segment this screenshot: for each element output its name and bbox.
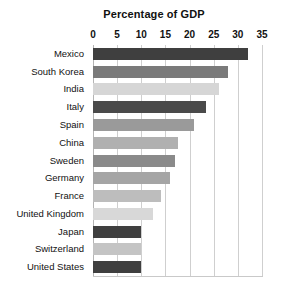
bar-chart: Percentage of GDP 05101520253035 MexicoS… [0, 0, 286, 289]
gridline-20 [190, 45, 191, 276]
category-label: France [0, 190, 88, 202]
category-label: Spain [0, 119, 88, 131]
gridline-35 [262, 45, 263, 276]
plot-area [93, 45, 262, 276]
x-tick-label-30: 30 [226, 29, 250, 40]
bar [93, 66, 228, 78]
x-axis-tick-labels: 05101520253035 [0, 29, 286, 43]
category-label: United States [0, 261, 88, 273]
chart-title: Percentage of GDP [0, 8, 286, 20]
axis-baseline [93, 276, 263, 277]
bar [93, 137, 178, 149]
category-label: United Kingdom [0, 208, 88, 220]
bar [93, 155, 175, 167]
x-tick-label-25: 25 [202, 29, 226, 40]
x-tick-label-20: 20 [178, 29, 202, 40]
category-label: Mexico [0, 48, 88, 60]
category-label: Japan [0, 226, 88, 238]
gridline-30 [238, 45, 239, 276]
category-label: India [0, 83, 88, 95]
bar [93, 48, 248, 60]
bar [93, 208, 153, 220]
chart-title-text: Percentage of GDP [103, 8, 204, 20]
category-label: Sweden [0, 155, 88, 167]
bar [93, 243, 141, 255]
category-label: South Korea [0, 66, 88, 78]
bar [93, 172, 170, 184]
x-tick-label-15: 15 [153, 29, 177, 40]
y-axis-category-labels: MexicoSouth KoreaIndiaItalySpainChinaSwe… [0, 45, 88, 276]
gridline-25 [214, 45, 215, 276]
x-tick-label-0: 0 [81, 29, 105, 40]
bar [93, 101, 206, 113]
x-tick-label-35: 35 [250, 29, 274, 40]
bar [93, 190, 161, 202]
category-label: Switzerland [0, 243, 88, 255]
x-tick-label-10: 10 [129, 29, 153, 40]
bar [93, 119, 194, 131]
bar [93, 83, 219, 95]
x-tick-label-5: 5 [105, 29, 129, 40]
bar [93, 226, 141, 238]
category-label: China [0, 137, 88, 149]
bar [93, 261, 141, 273]
category-label: Germany [0, 172, 88, 184]
category-label: Italy [0, 101, 88, 113]
